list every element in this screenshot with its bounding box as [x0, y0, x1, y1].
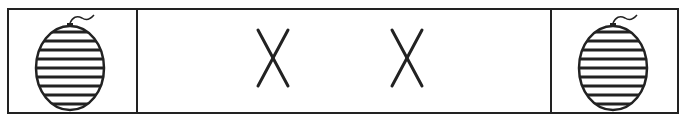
divider-right: [550, 8, 552, 114]
watermelon-icon: [573, 10, 653, 112]
watermelon-icon: [30, 10, 110, 112]
x-mark-icon: [386, 26, 428, 90]
x-mark-icon: [252, 26, 294, 90]
divider-left: [136, 8, 138, 114]
